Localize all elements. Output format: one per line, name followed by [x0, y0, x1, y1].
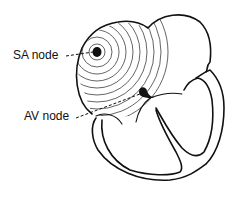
- sa-node-dot: [93, 47, 102, 57]
- heart-outer-outline: [92, 70, 224, 180]
- sa-node-label: SA node: [13, 48, 58, 62]
- av-node-label: AV node: [24, 109, 69, 123]
- atrium-outline: [77, 15, 211, 114]
- bundle-branch-left: [150, 93, 182, 98]
- atrioventricular-valve-line: [96, 114, 122, 124]
- av-node-dot: [139, 87, 154, 98]
- heart-diagram: [0, 0, 242, 198]
- left-ventricle-wall: [156, 78, 213, 155]
